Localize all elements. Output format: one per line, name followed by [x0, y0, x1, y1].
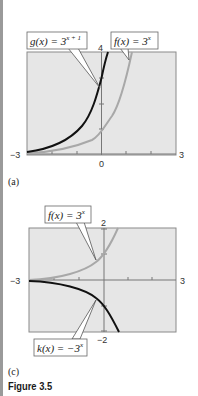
y-min-label: −2: [97, 335, 107, 345]
f-label: f(x) = 3: [48, 209, 82, 222]
svg-text:f(x) = 3x: f(x) = 3x: [48, 208, 86, 222]
x-max-label: 3: [180, 276, 185, 286]
figure-title: Figure 3.5: [8, 380, 52, 392]
f-label: f(x) = 3: [114, 35, 148, 48]
y-max-label: 2: [101, 218, 106, 228]
svg-text:f(x) = 3x: f(x) = 3x: [114, 34, 152, 48]
x-min-label: −3: [10, 150, 20, 160]
y-max-label: 4: [98, 43, 103, 53]
plot-c: −3 3 2 −2 f(x) = 3x k(x) = −3x: [0, 200, 198, 360]
x-zero-label: 0: [99, 159, 104, 169]
x-max-label: 3: [179, 150, 184, 160]
svg-text:k(x) = −3x: k(x) = −3x: [37, 341, 84, 355]
plot-a: −3 3 0 4 g(x) = 3x + 1 f(x) = 3x: [0, 30, 198, 170]
g-label: g(x) = 3: [30, 35, 67, 48]
panel-label-c: (c): [8, 366, 19, 377]
panel-label-a: (a): [8, 176, 19, 187]
g-exponent: x + 1: [65, 34, 81, 42]
k-label: k(x) = −3: [37, 342, 80, 355]
x-min-label: −3: [10, 276, 20, 286]
